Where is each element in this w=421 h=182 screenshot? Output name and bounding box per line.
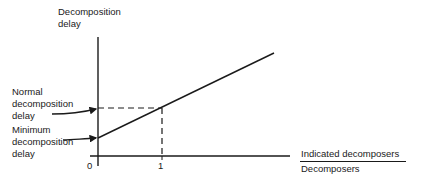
delay-function-line [98,53,274,138]
y-axis-label-line-1: Decomposition [58,6,121,18]
x-axis-label-denominator: Decomposers [301,163,360,175]
minimum-delay-line-3: delay [12,148,73,160]
minimum-delay-line-1: Minimum [12,124,73,136]
x-tick-label-1: 1 [158,160,163,172]
normal-delay-line-2: decomposition [12,98,73,110]
normal-delay-annotation: Normal decomposition delay [12,86,73,122]
normal-delay-line-3: delay [12,110,73,122]
y-axis-label-line-2: delay [58,18,121,30]
x-tick-label-0: 0 [87,160,92,172]
y-axis-label: Decomposition delay [58,6,121,30]
minimum-delay-annotation: Minimum decomposition delay [12,124,73,160]
x-axis-label-numerator: Indicated decomposers [301,148,399,160]
minimum-delay-line-2: decomposition [12,136,73,148]
normal-delay-line-1: Normal [12,86,73,98]
x-axis-label-fraction-bar [300,161,406,162]
